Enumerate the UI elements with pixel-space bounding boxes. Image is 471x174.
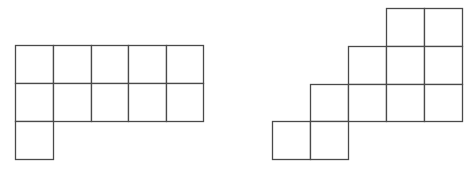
- grid-cell: [425, 47, 463, 85]
- grid-cell: [349, 47, 387, 85]
- grid-cell: [167, 46, 204, 84]
- grid-cell: [129, 46, 167, 84]
- grid-cell: [167, 84, 204, 122]
- grid-cell: [92, 46, 129, 84]
- grid-cell: [16, 46, 54, 84]
- figure-left: [16, 46, 204, 160]
- grid-cell: [425, 9, 463, 47]
- grid-cell: [54, 46, 92, 84]
- grid-cell: [16, 84, 54, 122]
- diagram-canvas: [0, 0, 471, 174]
- grid-cell: [273, 122, 311, 160]
- grid-cell: [311, 122, 349, 160]
- grid-cell: [129, 84, 167, 122]
- grid-cell: [387, 9, 425, 47]
- grid-cell: [387, 85, 425, 122]
- grid-cell: [54, 84, 92, 122]
- figure-right: [273, 9, 463, 160]
- grid-cell: [92, 84, 129, 122]
- grid-cell: [425, 85, 463, 122]
- grid-cell: [16, 122, 54, 160]
- grid-cell: [311, 85, 349, 122]
- grid-cell: [387, 47, 425, 85]
- grid-cell: [349, 85, 387, 122]
